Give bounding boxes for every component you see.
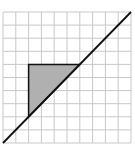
- grid-diagram: [0, 0, 135, 151]
- diagram-canvas: [0, 0, 135, 151]
